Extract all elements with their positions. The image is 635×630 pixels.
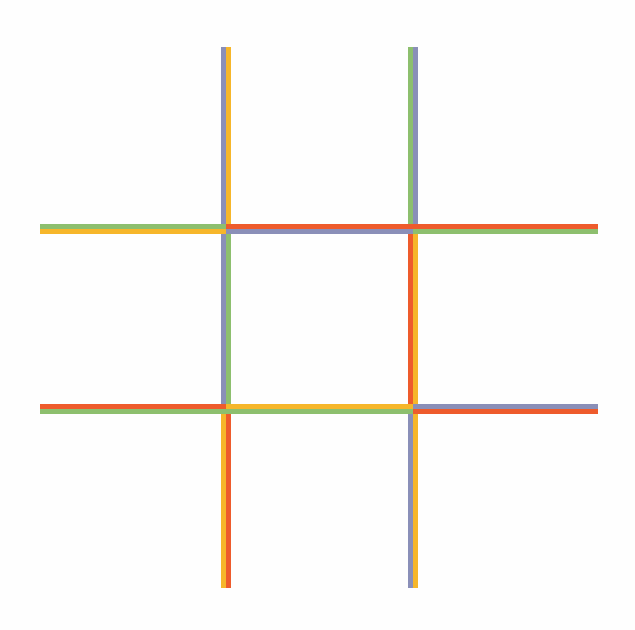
tic-tac-toe-grid [0, 0, 635, 630]
col2-bottom-line-segment [408, 410, 418, 588]
row2-left-line-segment [40, 404, 226, 414]
color-band-gray [226, 229, 413, 234]
col1-middle-line-segment [221, 225, 231, 410]
col1-top-line-segment [221, 47, 231, 225]
color-band-yellow [413, 225, 418, 410]
color-band-green [226, 409, 413, 414]
color-band-gray [413, 47, 418, 225]
color-band-yellow [226, 47, 231, 225]
color-band-red [413, 409, 598, 414]
color-band-green [40, 409, 226, 414]
row1-right-line-segment [413, 224, 598, 234]
color-band-green [413, 229, 598, 234]
col1-bottom-line-segment [221, 410, 231, 588]
color-band-red [226, 410, 231, 588]
col2-top-line-segment [408, 47, 418, 225]
row2-right-line-segment [413, 404, 598, 414]
row1-middle-line-segment [226, 224, 413, 234]
color-band-yellow [413, 410, 418, 588]
row1-left-line-segment [40, 224, 226, 234]
col2-middle-line-segment [408, 225, 418, 410]
row2-middle-line-segment [226, 404, 413, 414]
color-band-yellow [40, 229, 226, 234]
color-band-green [226, 225, 231, 410]
